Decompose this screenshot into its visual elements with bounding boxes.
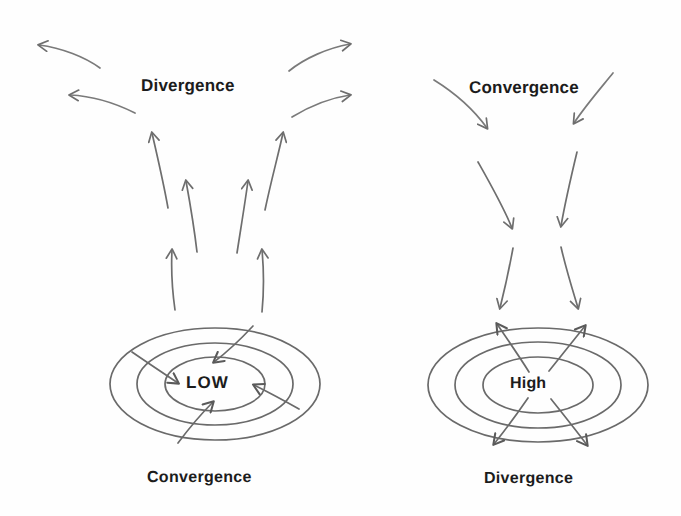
high-aloft-label: Convergence bbox=[469, 78, 579, 98]
low-center-label: LOW bbox=[186, 373, 229, 393]
pressure-systems-diagram: Divergence LOW Convergence Convergence H… bbox=[0, 0, 681, 516]
high-center-label: High bbox=[510, 375, 546, 393]
low-rising-arrows-upper bbox=[152, 133, 283, 210]
low-aloft-outflow-right bbox=[289, 44, 350, 117]
low-aloft-label: Divergence bbox=[141, 76, 235, 96]
low-rising-arrows-middle bbox=[186, 181, 248, 253]
low-surface-label: Convergence bbox=[147, 469, 252, 487]
high-sinking-arrows-upper bbox=[478, 152, 577, 228]
high-sinking-arrows-lower bbox=[500, 247, 578, 308]
high-surface-label: Divergence bbox=[484, 470, 573, 488]
low-rising-arrows-lower bbox=[172, 250, 264, 312]
low-aloft-outflow-left bbox=[39, 45, 135, 113]
